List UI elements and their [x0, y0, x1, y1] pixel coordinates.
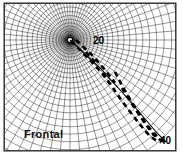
figure-container: 20 40 Frontal: [0, 0, 183, 158]
view-caption-frontal: Frontal: [24, 128, 63, 140]
contour-label-40: 40: [160, 135, 172, 146]
contour-label-20: 20: [93, 35, 105, 46]
mesh-contour-figure: 20 40 Frontal: [0, 0, 183, 158]
